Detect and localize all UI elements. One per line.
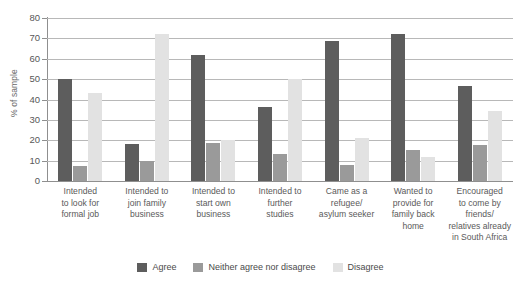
y-tick-label-80: 80 bbox=[18, 13, 40, 23]
y-tick-label-20: 20 bbox=[18, 135, 40, 145]
legend-swatch-icon bbox=[193, 263, 203, 272]
bar bbox=[221, 140, 235, 181]
x-category-label-line: Encouraged bbox=[440, 186, 519, 198]
bar bbox=[406, 150, 420, 181]
bar bbox=[355, 138, 369, 181]
bar-chart: % of sample 01020304050607080 Intendedto… bbox=[0, 0, 521, 288]
y-tick-label-10: 10 bbox=[18, 156, 40, 166]
bar-group bbox=[247, 18, 314, 181]
y-tick-label-30: 30 bbox=[18, 115, 40, 125]
bar bbox=[88, 93, 102, 181]
legend-item[interactable]: Neither agree nor disagree bbox=[193, 262, 315, 272]
y-tick-label-50: 50 bbox=[18, 74, 40, 84]
x-category-label-line: friends/ bbox=[440, 209, 519, 221]
x-category-label-line: relatives already bbox=[440, 221, 519, 233]
x-axis-line bbox=[42, 181, 513, 182]
bar bbox=[473, 145, 487, 181]
bar bbox=[191, 55, 205, 181]
y-tick-label-0: 0 bbox=[18, 176, 40, 186]
chart-legend: AgreeNeither agree nor disagreeDisagree bbox=[0, 262, 521, 272]
legend-swatch-icon bbox=[333, 263, 343, 272]
bar bbox=[258, 107, 272, 181]
bar-group bbox=[380, 18, 447, 181]
bar bbox=[288, 79, 302, 181]
legend-label: Neither agree nor disagree bbox=[208, 262, 315, 272]
bar-group bbox=[446, 18, 513, 181]
bar bbox=[325, 41, 339, 181]
legend-item[interactable]: Agree bbox=[137, 262, 176, 272]
bar bbox=[73, 166, 87, 181]
legend-item[interactable]: Disagree bbox=[333, 262, 384, 272]
bar-group bbox=[114, 18, 181, 181]
y-tick-label-60: 60 bbox=[18, 54, 40, 64]
legend-swatch-icon bbox=[137, 263, 147, 272]
bar bbox=[140, 161, 154, 181]
bar bbox=[155, 34, 169, 181]
bar bbox=[458, 86, 472, 181]
y-tick-label-40: 40 bbox=[18, 95, 40, 105]
bar bbox=[488, 111, 502, 181]
bar bbox=[340, 165, 354, 181]
legend-label: Agree bbox=[152, 262, 176, 272]
bar-group bbox=[313, 18, 380, 181]
bar bbox=[421, 157, 435, 181]
bar-group bbox=[180, 18, 247, 181]
x-category-label-line: in South Africa bbox=[440, 232, 519, 244]
bar bbox=[206, 143, 220, 181]
y-tick-label-70: 70 bbox=[18, 33, 40, 43]
plot-area bbox=[47, 18, 513, 181]
bar bbox=[273, 154, 287, 182]
bar bbox=[125, 144, 139, 181]
bar bbox=[58, 79, 72, 181]
x-category-label-line: to come by bbox=[440, 198, 519, 210]
x-axis-category-labels: Intendedto look forformal jobIntended to… bbox=[47, 186, 513, 258]
x-category-label: Encouragedto come byfriends/relatives al… bbox=[440, 186, 519, 244]
bar bbox=[391, 34, 405, 181]
legend-label: Disagree bbox=[348, 262, 384, 272]
bar-group bbox=[47, 18, 114, 181]
